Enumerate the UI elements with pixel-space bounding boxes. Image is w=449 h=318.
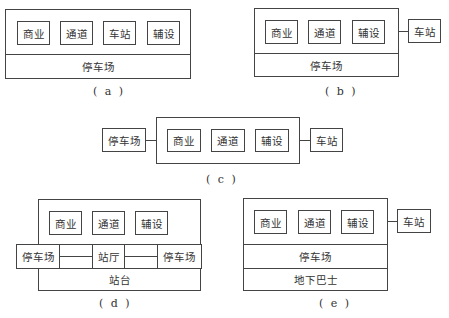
e-caption: ( e ) — [319, 297, 351, 310]
d-platform-label: 站台 — [38, 269, 201, 290]
c-left-connector — [146, 140, 156, 141]
c-box-auxiliary: 辅设 — [255, 129, 289, 152]
a-box-passage: 通道 — [60, 21, 93, 45]
b-connector — [399, 31, 408, 32]
c-box-passage: 通道 — [211, 129, 245, 152]
d-left-connector — [59, 256, 93, 257]
b-box-commerce: 商业 — [265, 20, 298, 44]
a-box-commerce: 商业 — [17, 21, 50, 45]
b-box-station: 车站 — [408, 19, 441, 43]
d-box-parking-right: 停车场 — [157, 244, 202, 269]
a-parking-label: 停车场 — [5, 55, 191, 78]
a-box-auxiliary: 辅设 — [147, 21, 180, 45]
d-caption: ( d ) — [99, 297, 132, 310]
e-box-station: 车站 — [397, 209, 431, 233]
b-parking-label: 停车场 — [254, 54, 399, 77]
c-caption: ( c ) — [206, 173, 238, 186]
e-box-auxiliary: 辅设 — [341, 210, 374, 234]
b-box-auxiliary: 辅设 — [352, 20, 385, 44]
c-box-commerce: 商业 — [167, 129, 201, 152]
e-parking-label: 停车场 — [243, 245, 388, 268]
e-box-passage: 通道 — [298, 210, 331, 234]
a-caption: ( a ) — [93, 85, 125, 98]
c-box-parking: 停车场 — [102, 128, 146, 152]
d-box-passage: 通道 — [92, 211, 125, 235]
e-connector — [388, 221, 397, 222]
d-box-commerce: 商业 — [49, 211, 82, 235]
d-box-auxiliary: 辅设 — [135, 211, 168, 235]
c-box-station: 车站 — [310, 128, 343, 152]
b-box-passage: 通道 — [308, 20, 341, 44]
a-box-station: 车站 — [103, 21, 136, 45]
e-box-commerce: 商业 — [254, 210, 287, 234]
d-box-parking-left: 停车场 — [16, 244, 60, 269]
d-right-connector — [124, 256, 158, 257]
c-right-connector — [300, 140, 310, 141]
e-underground-bus-label: 地下巴士 — [243, 269, 388, 290]
b-caption: ( b ) — [325, 85, 358, 98]
d-box-station-hall: 站厅 — [92, 244, 125, 269]
